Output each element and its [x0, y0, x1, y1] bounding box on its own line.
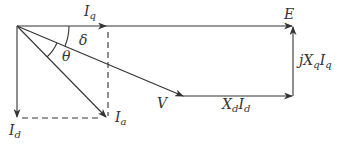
iq-label: Iq — [84, 4, 96, 21]
e-label: E — [284, 7, 294, 21]
theta-label: θ — [62, 49, 70, 63]
delta-arc — [65, 26, 69, 46]
ia-vector — [17, 26, 106, 117]
phasor-diagram-graphic — [0, 0, 347, 145]
v-label: V — [157, 96, 167, 110]
id-label: Id — [9, 123, 21, 140]
v-vector — [17, 26, 183, 96]
theta-arc — [47, 43, 57, 57]
delta-label: δ — [79, 33, 87, 47]
phasor-diagram: Iq E δ θ V XdId jXqIq Id Ia — [0, 0, 347, 145]
xdid-label: XdId — [222, 97, 250, 114]
jxqiq-label: jXqIq — [299, 53, 332, 70]
ia-label: Ia — [115, 110, 127, 127]
